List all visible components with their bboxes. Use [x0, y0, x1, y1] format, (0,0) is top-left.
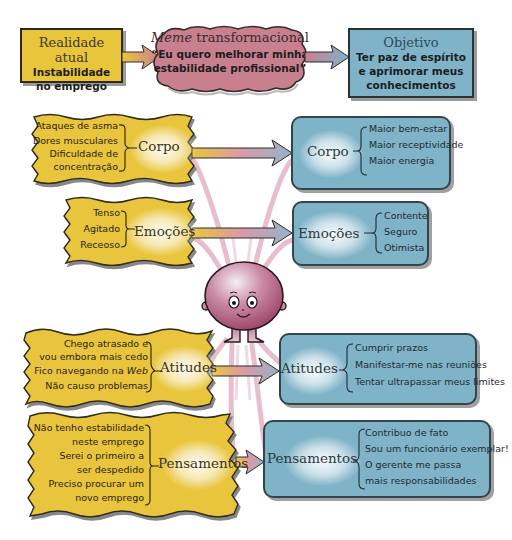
left-atitudes-item-4: Não causo problemas [45, 380, 148, 392]
left-corpo-node: Corpo Ataques de asma Dores musculares D… [32, 117, 194, 183]
brace-icon [121, 210, 135, 248]
left-corpo-label: Corpo [138, 138, 180, 154]
right-atitudes-label: Atitudes [281, 360, 338, 376]
left-atitudes-item-1: Chego atrasado e [64, 338, 148, 350]
left-corpo-item-4: concentração [54, 161, 118, 173]
left-atitudes-item-3-text: Fico navegando na [34, 365, 126, 376]
right-pensamentos-item-2: Sou um funcionário exemplar! [365, 443, 509, 455]
right-emocoes-label: Emoções [298, 225, 359, 241]
right-pensamentos-label: Pensamentos [267, 450, 357, 466]
right-corpo-node: Corpo Maior bem-estar Maior receptividad… [291, 116, 451, 190]
brace-icon [146, 341, 162, 393]
left-atitudes-item-2: vou embora mais cedo [39, 351, 148, 363]
brace-icon [119, 123, 137, 173]
left-pensamentos-item-1: Não tenho estabilidade [34, 422, 144, 434]
left-emocoes-item-3: Receoso [80, 239, 120, 251]
left-atitudes-label: Atitudes [160, 359, 217, 375]
brace-icon [353, 126, 367, 176]
left-pensamentos-item-3: Serei o primeiro a [59, 450, 144, 462]
right-corpo-item-2: Maior receptividade [369, 139, 463, 151]
right-emocoes-item-3: Otimista [384, 242, 424, 254]
left-pensamentos-item-6: novo emprego [75, 492, 144, 504]
left-pensamentos-item-4: ser despedido [77, 464, 144, 476]
left-atitudes-node: Atitudes Chego atrasado e vou embora mai… [24, 332, 214, 406]
right-atitudes-item-3: Tentar ultrapassar meus limites [355, 376, 505, 388]
brace-icon [339, 343, 353, 393]
right-atitudes-item-1: Cumprir prazos [355, 342, 428, 354]
left-pensamentos-item-5: Preciso procurar um [49, 478, 144, 490]
right-atitudes-item-2: Manifestar-me nas reuniões [355, 359, 487, 371]
right-corpo-item-1: Maior bem-estar [369, 123, 447, 135]
right-pensamentos-item-4: mais responsabilidades [365, 475, 476, 487]
right-pensamentos-node: Pensamentos Contribuo de fato Sou um fun… [263, 420, 491, 498]
right-emocoes-item-2: Seguro [384, 226, 417, 238]
left-atitudes-item-3-web: Web [127, 365, 148, 376]
right-atitudes-node: Atitudes Cumprir prazos Manifestar-me na… [279, 333, 477, 405]
right-corpo-label: Corpo [307, 143, 349, 159]
right-emocoes-node: Emoções Contente Seguro Otimista [292, 201, 429, 266]
left-atitudes-item-3: Fico navegando na Web [34, 365, 148, 377]
smiling-character-icon [196, 258, 292, 350]
brace-icon [353, 428, 365, 490]
left-emocoes-item-2: Agitado [83, 223, 120, 235]
brace-icon [145, 424, 159, 506]
left-corpo-item-1: Ataques de asma [36, 120, 119, 132]
left-emocoes-node: Emoções Tenso Agitado Receoso [64, 200, 194, 264]
right-emocoes-item-1: Contente [384, 210, 428, 222]
left-corpo-item-3: Dificuldade de [50, 148, 118, 160]
right-corpo-item-3: Maior energia [369, 155, 434, 167]
left-emocoes-item-1: Tenso [93, 207, 120, 219]
left-pensamentos-node: Pensamentos Não tenho estabilidade neste… [28, 414, 238, 518]
left-pensamentos-label: Pensamentos [158, 455, 248, 471]
right-pensamentos-item-3: O gerente me passa [365, 459, 461, 471]
right-pensamentos-item-1: Contribuo de fato [365, 427, 448, 439]
left-emocoes-label: Emoções [134, 223, 195, 239]
left-corpo-item-2: Dores musculares [33, 135, 118, 147]
brace-icon [364, 212, 382, 254]
left-pensamentos-item-2: neste emprego [72, 436, 144, 448]
